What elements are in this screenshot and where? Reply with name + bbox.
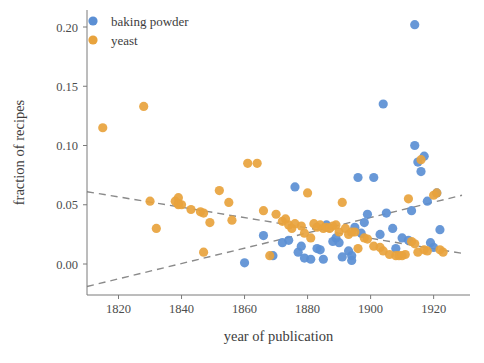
data-point (199, 208, 208, 217)
data-point (215, 186, 224, 195)
data-point (338, 198, 347, 207)
y-tick-label: 0.10 (56, 139, 78, 153)
data-point (404, 194, 413, 203)
y-tick-label: 0.15 (56, 80, 78, 94)
data-point (186, 205, 195, 214)
legend-marker (88, 16, 97, 25)
data-point (375, 230, 384, 239)
data-point (416, 167, 425, 176)
data-point (205, 218, 214, 227)
data-point (432, 188, 441, 197)
data-point (423, 246, 432, 255)
x-tick-label: 1840 (169, 302, 194, 316)
data-point (284, 236, 293, 245)
data-point (350, 227, 359, 236)
data-point (303, 188, 312, 197)
data-point (363, 210, 372, 219)
data-point (98, 123, 107, 132)
data-point (177, 200, 186, 209)
data-point (297, 242, 306, 251)
data-point (353, 173, 362, 182)
x-axis-title: year of publication (224, 328, 334, 344)
data-point (335, 238, 344, 247)
data-point (259, 206, 268, 215)
data-point (152, 224, 161, 233)
data-point (435, 225, 444, 234)
chart-legend: baking powderyeast (88, 14, 189, 48)
data-point (271, 210, 280, 219)
x-tick-label: 1820 (106, 302, 131, 316)
data-point (199, 248, 208, 257)
data-point (382, 208, 391, 217)
data-point (290, 182, 299, 191)
data-point (401, 250, 410, 259)
data-point (227, 216, 236, 225)
data-point (240, 258, 249, 267)
data-point (316, 245, 325, 254)
data-point (369, 173, 378, 182)
data-point (410, 20, 419, 29)
x-tick-label: 1860 (232, 302, 257, 316)
data-point (363, 235, 372, 244)
data-point (306, 255, 315, 264)
data-point (259, 231, 268, 240)
legend-label: baking powder (111, 14, 189, 29)
data-point (253, 159, 262, 168)
data-point (416, 155, 425, 164)
y-tick-label: 0.00 (56, 258, 78, 272)
data-point (410, 239, 419, 248)
data-point (306, 233, 315, 242)
data-point (379, 99, 388, 108)
data-point (388, 224, 397, 233)
data-point (407, 206, 416, 215)
legend-label: yeast (111, 33, 138, 48)
data-point (360, 218, 369, 227)
y-tick-label: 0.20 (56, 21, 78, 35)
data-point (139, 102, 148, 111)
data-point (265, 251, 274, 260)
data-point (438, 248, 447, 257)
scatter-chart-figure: 1820184018601880190019200.000.050.100.15… (0, 0, 484, 363)
y-axis-title: fraction of recipes (11, 99, 27, 205)
x-tick-label: 1920 (421, 302, 446, 316)
x-tick-label: 1900 (358, 302, 383, 316)
x-tick-label: 1880 (295, 302, 320, 316)
data-point (243, 159, 252, 168)
y-tick-label: 0.05 (56, 198, 78, 212)
chart-canvas: 1820184018601880190019200.000.050.100.15… (0, 0, 484, 363)
data-points-group (98, 20, 448, 267)
data-point (410, 141, 419, 150)
legend-marker (88, 35, 97, 44)
legend-item-baking-powder[interactable]: baking powder (88, 14, 189, 29)
data-point (353, 244, 362, 253)
data-point (145, 197, 154, 206)
data-point (224, 198, 233, 207)
data-point (319, 255, 328, 264)
data-point (347, 256, 356, 265)
legend-item-yeast[interactable]: yeast (88, 33, 138, 48)
series-yeast (98, 102, 448, 261)
